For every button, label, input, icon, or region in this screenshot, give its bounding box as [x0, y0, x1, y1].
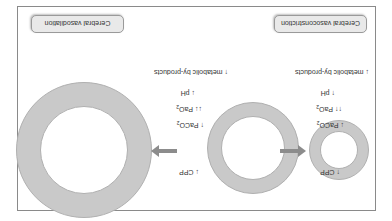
constriction-ph: ↑ pH — [321, 90, 335, 97]
normal-vessel — [207, 102, 299, 194]
constriction-paco2: ↓ PaCO2 — [317, 120, 344, 129]
constricted-vessel-lumen — [320, 131, 358, 169]
dilation-pao2: ↓↓ PaO2 — [176, 104, 202, 113]
vasodilation-label: Cerebral vasodilation — [31, 15, 124, 33]
vasoconstriction-label: Cerebral vasoconstriction — [274, 15, 367, 33]
diagram-stage: Cerebral vasoconstriction Cerebral vasod… — [0, 0, 392, 221]
dilation-cpp: ↓ CPP — [179, 169, 199, 176]
normal-vessel-lumen — [221, 116, 285, 180]
arrow-to-dilation-icon — [158, 149, 177, 153]
constriction-cpp: ↑ CPP — [320, 169, 340, 176]
vasoconstriction-title: Cerebral vasoconstriction — [281, 21, 360, 28]
dilation-ph: ↓ pH — [181, 90, 195, 97]
dilated-vessel — [16, 82, 152, 218]
dilation-paco2: ↑ PaCO2 — [177, 120, 204, 129]
constriction-pao2: ↑↑ PaO2 — [316, 104, 342, 113]
dilated-vessel-lumen — [40, 106, 128, 194]
vasodilation-title: Cerebral vasodilation — [45, 21, 111, 28]
arrow-to-constriction-icon — [280, 149, 299, 153]
dilation-metabolic: ↑ metabolic by-products — [154, 69, 228, 76]
constriction-metabolic: ↓ metabolic by-products — [295, 69, 369, 76]
